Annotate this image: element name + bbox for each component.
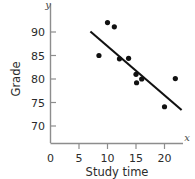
y-tick-label: 75 (31, 97, 45, 110)
data-point (117, 56, 122, 61)
y-tick-label: 80 (31, 73, 45, 86)
x-axis-tick-labels: 0 5 10 15 20 (47, 152, 172, 165)
data-point (173, 76, 178, 81)
y-axis-variable-label: y (44, 0, 51, 10)
data-point (96, 53, 101, 58)
x-tick-label: 0 (47, 152, 54, 165)
data-point (126, 56, 131, 61)
y-axis-ticks (51, 32, 57, 126)
x-tick-label: 5 (76, 152, 83, 165)
x-tick-label: 20 (158, 152, 172, 165)
data-point (133, 72, 138, 77)
scatter-plot-chart: y x 90 85 80 75 70 0 5 10 1 (0, 0, 195, 179)
x-axis-title: Study time (86, 165, 149, 179)
data-point (162, 104, 167, 109)
regression-trend-line (90, 32, 181, 110)
y-axis-title: Grade (9, 61, 23, 96)
data-point (139, 76, 144, 81)
x-axis-ticks (79, 144, 165, 150)
y-tick-label: 70 (31, 120, 45, 133)
data-point (112, 24, 117, 29)
x-tick-label: 15 (129, 152, 143, 165)
data-point (134, 80, 139, 85)
y-tick-label: 90 (31, 26, 45, 39)
data-point (105, 20, 110, 25)
x-tick-label: 10 (101, 152, 115, 165)
y-tick-label: 85 (31, 50, 45, 63)
plot-canvas: y x 90 85 80 75 70 0 5 10 1 (0, 0, 195, 179)
x-axis-variable-label: x (184, 132, 190, 143)
y-axis-tick-labels: 90 85 80 75 70 (31, 26, 45, 133)
